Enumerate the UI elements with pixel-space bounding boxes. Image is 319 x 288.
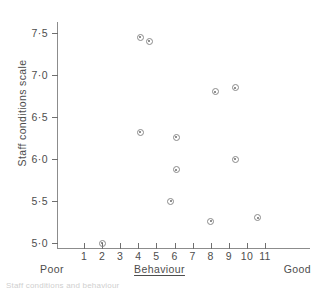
- x-axis-annotation-row: Poor Behaviour Good: [0, 263, 319, 277]
- x-tick-label: 3: [112, 251, 128, 262]
- data-point: [137, 129, 144, 136]
- x-tick-label: 6: [167, 251, 183, 262]
- data-point: [146, 38, 153, 45]
- scatter-plot-figure: Staff conditions scale 7·57·06·56·05·55·…: [0, 0, 319, 288]
- y-tick-label: 5·5: [14, 196, 48, 206]
- x-tick-label: 1: [76, 251, 92, 262]
- x-axis-line: [57, 248, 310, 249]
- data-point: [207, 218, 214, 225]
- x-tick-label: 4: [130, 251, 146, 262]
- data-point: [137, 34, 144, 41]
- data-point: [167, 198, 174, 205]
- x-axis-title: Behaviour: [0, 263, 319, 275]
- clipped-footer-caption: Staff conditions and behaviour: [6, 281, 206, 288]
- x-tick-label: 2: [94, 251, 110, 262]
- y-tick-label: 5·0: [14, 238, 48, 248]
- x-tick-label: 10: [239, 251, 255, 262]
- y-tick-label: 6·5: [14, 112, 48, 122]
- y-tick-label: 7·5: [14, 28, 48, 38]
- data-point: [232, 156, 239, 163]
- x-tick-label: 5: [148, 251, 164, 262]
- x-tick-mark: [265, 243, 266, 249]
- data-point: [173, 134, 180, 141]
- data-point: [99, 240, 106, 247]
- x-tick-label: 9: [221, 251, 237, 262]
- y-tick-label: 7·0: [14, 70, 48, 80]
- data-point: [232, 84, 239, 91]
- x-axis-high-end-label: Good: [284, 263, 311, 275]
- y-tick-label: 6·0: [14, 154, 48, 164]
- x-tick-label: 7: [185, 251, 201, 262]
- plot-area: [57, 22, 257, 248]
- x-tick-label: 11: [257, 251, 273, 262]
- x-tick-label: 8: [203, 251, 219, 262]
- data-point: [254, 214, 261, 221]
- data-point: [212, 88, 219, 95]
